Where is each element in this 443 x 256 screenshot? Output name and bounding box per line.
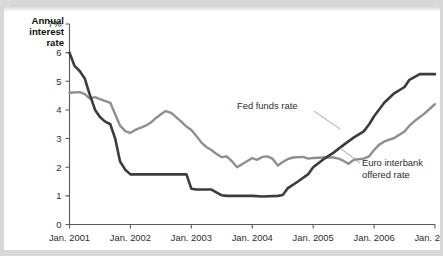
- y-tick-label: 5: [56, 76, 61, 87]
- euro-interbank-offered-rate-label: offered rate: [362, 169, 410, 180]
- y-tick-label: 4: [56, 104, 61, 115]
- x-tick-label: Jan. 2005: [293, 232, 334, 243]
- chart-annotations: Fed funds rateEuro interbankoffered rate: [237, 100, 423, 180]
- x-tick-label: Jan. 2006: [353, 232, 394, 243]
- y-tick-label: 1: [56, 190, 61, 201]
- y-tick-label: 3: [56, 133, 61, 144]
- y-axis-title-line-3: rate: [46, 37, 64, 48]
- x-tick-label: Jan. 2002: [110, 232, 151, 243]
- y-axis-tick-labels: 7%6543210: [48, 18, 62, 230]
- x-axis-tick-labels: Jan. 2001Jan. 2002Jan. 2003Jan. 2004Jan.…: [49, 232, 440, 243]
- y-axis-title-line-2: interest: [29, 26, 64, 37]
- y-tick-label: 2: [56, 162, 61, 173]
- y-axis-title: Annual interest rate: [29, 15, 64, 48]
- y-axis-title-line-1: Annual: [31, 15, 64, 26]
- x-axis-ticks: [70, 225, 436, 229]
- x-axis-group: Jan. 2001Jan. 2002Jan. 2003Jan. 2004Jan.…: [49, 225, 440, 243]
- interest-rate-line-chart: 7%6543210 Jan. 2001Jan. 2002Jan. 2003Jan…: [4, 5, 440, 250]
- x-tick-label: Jan. 2001: [49, 232, 90, 243]
- chart-svg: 7%6543210 Jan. 2001Jan. 2002Jan. 2003Jan…: [4, 5, 440, 250]
- fed-funds-rate-label: Fed funds rate: [237, 100, 297, 111]
- x-tick-label: Jan. 2004: [232, 232, 273, 243]
- x-tick-label: Jan. 2003: [171, 232, 212, 243]
- x-tick-label: Jan. 2007: [414, 232, 440, 243]
- euro-interbank-offered-rate-label: Euro interbank: [362, 157, 423, 168]
- chart-figure-panel: 7%6543210 Jan. 2001Jan. 2002Jan. 2003Jan…: [4, 5, 440, 250]
- annotation-leader-line: [314, 111, 340, 129]
- y-axis-group: 7%6543210: [48, 18, 70, 230]
- y-tick-label: 0: [56, 219, 61, 230]
- y-tick-label: 6: [56, 47, 61, 58]
